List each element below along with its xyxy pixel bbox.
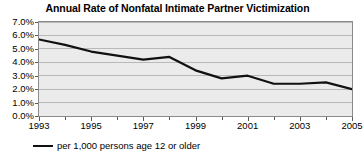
legend-line-swatch (33, 145, 53, 147)
x-tick-label: 1995 (81, 121, 102, 131)
x-tick-label: 2001 (237, 121, 258, 131)
x-tick-label: 2005 (341, 121, 362, 131)
chart-legend: per 1,000 persons age 12 or older (33, 140, 200, 151)
x-tick-label: 1993 (28, 121, 49, 131)
legend-label: per 1,000 persons age 12 or older (57, 140, 200, 151)
x-tick-label: 1999 (185, 121, 206, 131)
x-tick-label: 2003 (289, 121, 310, 131)
x-tick-label: 1997 (133, 121, 154, 131)
